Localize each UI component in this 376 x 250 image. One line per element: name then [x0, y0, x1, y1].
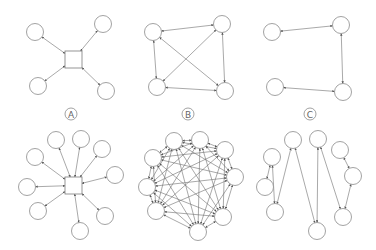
network-node [139, 179, 156, 196]
top-b-mesh-edge [154, 40, 157, 78]
bottom-b-mesh-edge [208, 143, 217, 147]
panel-label-c: C [304, 108, 316, 120]
bottom-a-hub-edge [75, 147, 80, 177]
hub-node [65, 51, 82, 68]
network-node [190, 224, 207, 241]
network-node [149, 79, 166, 96]
top-b-mesh-edge [161, 25, 213, 31]
network-node [148, 203, 165, 220]
bottom-b-mesh-edge [225, 185, 232, 209]
bottom-b-mesh-edge [223, 158, 224, 208]
hub-node [65, 177, 82, 194]
network-node [285, 132, 302, 149]
network-node [264, 149, 281, 166]
top-c-chain-edge [341, 33, 342, 83]
network-node [227, 169, 244, 186]
network-node [335, 209, 352, 226]
network-node [166, 133, 183, 150]
bottom-a-hub-edge [82, 194, 99, 210]
network-node [48, 132, 65, 149]
label-letter: C [307, 110, 313, 120]
panel-labels: ABC [65, 108, 316, 120]
top-a-hub-edge [45, 66, 65, 81]
bottom-c-chain-edge [344, 158, 349, 169]
panel-label-b: B [182, 108, 194, 120]
network-node [345, 168, 362, 185]
network-node [192, 132, 209, 149]
network-node [72, 223, 89, 240]
network-node [214, 16, 231, 33]
network-node [30, 203, 47, 220]
network-node [73, 131, 90, 148]
network-topology-diagram: ABC [0, 0, 376, 250]
bottom-b-mesh-edge [161, 160, 226, 175]
network-node [310, 131, 327, 148]
bottom-b-mesh-edge [202, 148, 220, 209]
network-node [95, 16, 112, 33]
top-b-mesh-edge [165, 87, 216, 90]
panel-label-a: A [65, 108, 77, 120]
network-node [332, 142, 349, 159]
top-c-chain-edge [280, 26, 332, 31]
label-letter: A [68, 110, 75, 120]
top-a-hub-edge [82, 68, 100, 85]
top-b-mesh-edge [222, 32, 224, 82]
bottom-b-mesh-edge [164, 180, 227, 207]
top-a-hub-edge [42, 37, 65, 53]
bottom-b-mesh-edge [198, 148, 200, 223]
network-node [217, 83, 234, 100]
network-node [145, 24, 162, 41]
bottom-b-mesh-edge [164, 212, 214, 216]
network-node [30, 78, 47, 95]
network-node [267, 79, 284, 96]
network-node [257, 179, 274, 196]
bottom-c-chain-edge [295, 148, 315, 223]
bottom-b-mesh-edge [205, 221, 215, 227]
bottom-a-hub-edge [80, 156, 97, 177]
bottom-a-hub-edge [59, 148, 70, 177]
network-node [27, 149, 44, 166]
network-node [97, 208, 114, 225]
network-node [333, 17, 350, 34]
top-c-chain-edge [283, 88, 334, 92]
bottom-c-chain-edge [267, 165, 270, 178]
network-node [94, 141, 111, 158]
bottom-b-mesh-edge [149, 166, 152, 178]
network-node [267, 204, 284, 221]
network-node [107, 167, 124, 184]
network-node [98, 83, 115, 100]
bottom-a-hub-edge [35, 186, 65, 187]
bottom-b-mesh-edge [150, 195, 153, 203]
edges-layer [35, 25, 350, 228]
bottom-a-hub-edge [45, 192, 65, 206]
bottom-a-hub-edge [82, 177, 107, 183]
network-node [264, 24, 281, 41]
nodes-layer [19, 16, 362, 241]
network-node [309, 223, 326, 240]
bottom-c-chain-edge [317, 147, 318, 222]
label-letter: B [185, 110, 191, 120]
bottom-b-mesh-edge [162, 156, 218, 206]
network-node [215, 209, 232, 226]
top-b-mesh-edge [160, 37, 219, 85]
bottom-b-mesh-edge [160, 146, 168, 152]
bottom-a-hub-edge [75, 194, 79, 223]
network-node [19, 179, 36, 196]
network-node [217, 142, 234, 159]
top-a-hub-edge [81, 31, 98, 51]
network-node [335, 84, 352, 101]
network-node [27, 24, 44, 41]
bottom-c-chain-edge [345, 184, 351, 208]
top-b-mesh-edge [163, 30, 216, 81]
network-node [145, 150, 162, 167]
bottom-a-hub-edge [42, 162, 65, 179]
bottom-b-mesh-edge [228, 158, 232, 169]
